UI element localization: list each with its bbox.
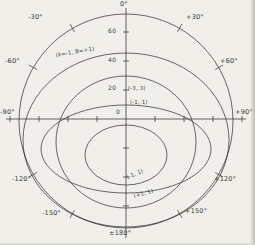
- angle-label-p60: +60°: [220, 58, 238, 65]
- polar-figure: 0° -30° +30° -60° +60° -90° +90° -120° +…: [0, 0, 255, 245]
- radial-tick-20: 20: [108, 85, 117, 91]
- angle-label-m60: -60°: [5, 58, 20, 65]
- angle-label-m30: -30°: [28, 14, 43, 21]
- angle-label-p150: +150°: [185, 208, 207, 215]
- angle-label-m120: -120°: [12, 176, 31, 183]
- radial-tick-40: 40: [108, 57, 117, 63]
- angle-label-m90: -90°: [0, 109, 15, 116]
- curve-label-m3-3: (-3, 3): [128, 86, 145, 92]
- radial-tick-60: 60: [108, 28, 117, 34]
- scan-shadow-right: [250, 0, 255, 245]
- radial-tick-0: 0: [116, 109, 120, 115]
- angle-label-p120: +120°: [214, 176, 236, 183]
- angle-label-p30: +30°: [186, 14, 204, 21]
- angle-label-0: 0°: [120, 1, 128, 8]
- angle-label-m150: -150°: [42, 210, 61, 217]
- curve-label-m1-1-top: (-1, 1): [130, 100, 147, 106]
- figure-canvas: [0, 0, 255, 245]
- angle-label-180: ±180°: [109, 230, 131, 237]
